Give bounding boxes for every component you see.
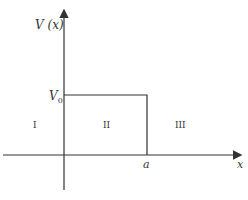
barrier-width-label: a (143, 158, 150, 171)
region-label-3: III (175, 120, 186, 130)
region-label-1: I (33, 120, 37, 130)
region-label-2: II (103, 120, 111, 130)
potential-barrier-diagram: V (x) V0 I II III a x (0, 0, 248, 200)
barrier-height-label: V0 (49, 89, 63, 105)
y-axis-label: V (x) (35, 18, 64, 32)
x-axis-label: x (237, 158, 244, 171)
